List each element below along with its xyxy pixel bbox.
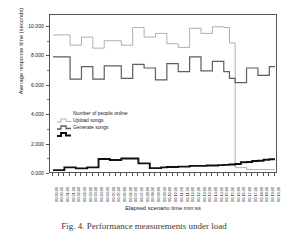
x-tick-mark xyxy=(200,173,201,176)
x-tick-label: 00:06:30 xyxy=(128,187,133,202)
x-tick-mark xyxy=(251,173,252,176)
legend-label: Generate songs xyxy=(73,124,109,131)
x-tick-mark xyxy=(172,173,173,176)
x-tick-mark xyxy=(115,173,116,176)
legend-line-sample xyxy=(57,110,71,117)
x-tick-label: 00:14:00 xyxy=(213,187,218,202)
legend-label: Upload songs xyxy=(73,117,104,124)
x-tick-label: 00:04:00 xyxy=(99,187,104,202)
x-tick-label: 00:05:00 xyxy=(111,187,116,202)
x-tick-mark xyxy=(268,173,269,176)
x-tick-label: 00:18:00 xyxy=(259,187,264,202)
x-tick-label: 00:00:00 xyxy=(54,187,59,202)
x-tick-label: 00:08:30 xyxy=(150,187,155,202)
x-tick-label: 00:01:00 xyxy=(65,187,70,202)
x-tick-mark xyxy=(166,173,167,176)
legend-label: Number of people online xyxy=(73,110,127,117)
x-tick-mark xyxy=(257,173,258,176)
x-tick-mark xyxy=(177,173,178,176)
y-tick-label: 2.000 xyxy=(4,141,44,147)
x-tick-mark xyxy=(160,173,161,176)
x-tick-mark xyxy=(52,173,53,176)
x-tick-mark xyxy=(183,173,184,176)
x-tick-label: 00:19:00 xyxy=(270,187,275,202)
figure-container: Average response time (seconds) 0.0002.0… xyxy=(0,0,288,233)
chart-legend: Number of people onlineUpload songsGener… xyxy=(57,110,127,132)
x-tick-label: 00:09:00 xyxy=(156,187,161,202)
x-tick-label: 00:13:00 xyxy=(202,187,207,202)
x-tick-mark xyxy=(75,173,76,176)
x-tick-label: 00:04:30 xyxy=(105,187,110,202)
x-tick-mark xyxy=(98,173,99,176)
x-tick-label: 00:10:00 xyxy=(167,187,172,202)
series-line xyxy=(53,27,275,170)
x-tick-label: 00:06:00 xyxy=(122,187,127,202)
legend-item: Generate songs xyxy=(57,124,127,131)
x-tick-label: 00:13:30 xyxy=(207,187,212,202)
x-tick-label: 00:16:00 xyxy=(236,187,241,202)
x-tick-label: 00:02:30 xyxy=(82,187,87,202)
x-tick-mark xyxy=(149,173,150,176)
x-tick-label: 00:16:30 xyxy=(241,187,246,202)
x-tick-label: 00:03:30 xyxy=(93,187,98,202)
y-tick-label: 8.000 xyxy=(4,52,44,58)
x-tick-label: 00:12:30 xyxy=(196,187,201,202)
figure-caption: Fig. 4. Performance measurements under l… xyxy=(0,221,288,231)
x-tick-label: 00:12:00 xyxy=(190,187,195,202)
x-tick-mark xyxy=(143,173,144,176)
x-tick-mark xyxy=(80,173,81,176)
x-tick-mark xyxy=(274,173,275,176)
x-tick-mark xyxy=(263,173,264,176)
x-tick-mark xyxy=(132,173,133,176)
x-tick-label: 00:05:30 xyxy=(116,187,121,202)
x-tick-mark xyxy=(240,173,241,176)
x-tick-label: 00:03:00 xyxy=(88,187,93,202)
plot-area xyxy=(49,14,277,173)
x-tick-label: 00:18:30 xyxy=(264,187,269,202)
y-tick-label: 0.000 xyxy=(4,170,44,176)
legend-item: Number of people online xyxy=(57,110,127,117)
legend-line-sample xyxy=(57,124,71,131)
x-tick-mark xyxy=(194,173,195,176)
x-tick-label: 00:11:30 xyxy=(185,187,190,202)
x-tick-mark xyxy=(103,173,104,176)
x-tick-mark xyxy=(234,173,235,176)
x-tick-mark xyxy=(92,173,93,176)
x-tick-mark xyxy=(126,173,127,176)
series-line xyxy=(53,159,275,171)
x-tick-label: 00:17:00 xyxy=(247,187,252,202)
x-tick-label: 00:15:00 xyxy=(224,187,229,202)
x-tick-mark xyxy=(189,173,190,176)
x-tick-mark xyxy=(86,173,87,176)
x-tick-mark xyxy=(246,173,247,176)
x-tick-mark xyxy=(228,173,229,176)
x-tick-mark xyxy=(154,173,155,176)
x-tick-label: 00:07:30 xyxy=(139,187,144,202)
x-tick-label: 00:09:30 xyxy=(162,187,167,202)
x-tick-label: 00:17:30 xyxy=(253,187,258,202)
x-tick-label: 00:07:00 xyxy=(133,187,138,202)
x-tick-mark xyxy=(120,173,121,176)
x-tick-mark xyxy=(63,173,64,176)
chart-svg xyxy=(50,15,278,174)
x-axis-tick-labels: 00:00:0000:00:3000:01:0000:01:3000:02:00… xyxy=(49,174,277,204)
x-tick-mark xyxy=(223,173,224,176)
x-tick-label: 00:08:00 xyxy=(145,187,150,202)
x-tick-label: 00:10:30 xyxy=(173,187,178,202)
x-tick-label: 00:19:30 xyxy=(276,187,281,202)
x-tick-mark xyxy=(58,173,59,176)
x-tick-label: 00:14:30 xyxy=(219,187,224,202)
x-tick-mark xyxy=(109,173,110,176)
x-tick-mark xyxy=(206,173,207,176)
legend-line-sample xyxy=(57,117,71,124)
y-tick-label: 10.000 xyxy=(4,23,44,29)
x-tick-label: 00:02:00 xyxy=(76,187,81,202)
x-axis-title: Elapsed scenario time mm:ss xyxy=(49,205,277,211)
y-tick-label: 6.000 xyxy=(4,82,44,88)
x-tick-mark xyxy=(217,173,218,176)
y-tick-label: 4.000 xyxy=(4,111,44,117)
x-tick-mark xyxy=(211,173,212,176)
x-tick-label: 00:11:00 xyxy=(179,187,184,202)
x-tick-mark xyxy=(69,173,70,176)
x-tick-label: 00:01:30 xyxy=(71,187,76,202)
